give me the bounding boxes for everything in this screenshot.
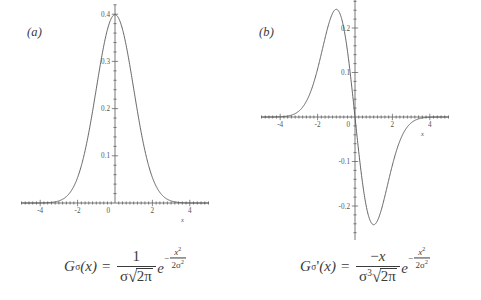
formula-b-radical: √2π (372, 268, 397, 285)
figure-root: (a) -4-20240.10.20.30.4x (b) -4-20240.20… (0, 0, 481, 300)
y-tick-label: 0.4 (101, 11, 110, 19)
formula-a-radical: √2π (128, 268, 153, 285)
x-tick-label: -4 (277, 121, 283, 129)
formula-a-exp-num-pow: 2 (178, 247, 181, 253)
panel-gaussian-derivative: (b) -4-20240.20.1-0.1-0.2x (241, 0, 481, 240)
formula-b-exp-den-pow: 2 (425, 259, 428, 265)
formula-a-numerator: 1 (130, 249, 144, 266)
formula-a-exp-num: x2 (172, 247, 183, 258)
x-tick-label: 4 (188, 207, 192, 215)
x-tick-label: -2 (315, 121, 321, 129)
y-tick-label: 0.1 (101, 152, 110, 160)
formula-b-exp-fraction: x2 2σ2 (414, 247, 430, 270)
x-tick-label: -4 (37, 207, 43, 215)
formula-a-exp-den: 2σ2 (170, 258, 186, 270)
y-tick-label: 0.1 (341, 69, 350, 77)
formula-a-radicand: 2π (136, 268, 153, 285)
formula-a-fn: G (64, 258, 75, 275)
formula-b-equals: = (341, 258, 349, 275)
formula-a-exponent: − x2 2σ2 (164, 247, 186, 270)
formula-a-equals: = (102, 258, 110, 275)
x-tick-label: 2 (151, 207, 155, 215)
formula-b-exp-num: x2 (416, 247, 427, 258)
x-axis-label: x (420, 130, 424, 137)
formula-a-exp-minus: − (164, 253, 169, 263)
formula-b-exp-den: 2σ2 (414, 258, 430, 270)
gaussian-derivative-plot: -4-20240.20.1-0.1-0.2x (241, 0, 481, 240)
formula-a-den-sigma: σ (120, 268, 128, 284)
plot-group: -4-20240.20.1-0.1-0.2x (262, 0, 449, 240)
plot-group: -4-20240.10.20.30.4x (22, 5, 209, 223)
formula-b-num-minus: − (370, 248, 378, 264)
x-tick-label: 4 (428, 121, 432, 129)
y-tick-label: -0.1 (339, 158, 351, 166)
formula-b-numerator: −x (367, 249, 388, 266)
x-tick-label: -2 (75, 207, 81, 215)
x-tick-label: 2 (391, 121, 395, 129)
y-tick-label: 0.2 (341, 25, 350, 33)
formula-a-arg: (x) (80, 258, 97, 275)
radical-sign-icon: √ (372, 268, 381, 285)
formula-a-exp-den-pow: 2 (181, 259, 184, 265)
formula-a-fraction: 1 σ√2π (117, 249, 156, 285)
formula-gaussian-derivative: Gσ'(x) = −x σ3√2π e − x2 2σ2 (300, 249, 430, 285)
formula-b-exponent: − x2 2σ2 (408, 247, 430, 270)
formula-b-exp-base: e (401, 260, 408, 278)
formula-a-denominator: σ√2π (117, 266, 156, 285)
formula-b-exp-num-pow: 2 (422, 247, 425, 253)
formula-b-exp-minus: − (408, 253, 413, 263)
formula-b-den-sigma: σ (359, 268, 367, 284)
x-tick-label: 0 (106, 207, 110, 215)
formula-b-fn: G (300, 258, 311, 275)
x-tick-label: 0 (346, 121, 350, 129)
gaussian-plot: -4-20240.10.20.30.4x (0, 0, 240, 240)
formula-b-subscript: σ (311, 262, 316, 272)
y-tick-label: -0.2 (339, 203, 351, 211)
formula-b-num-var: x (379, 248, 386, 264)
formula-b-fraction: −x σ3√2π (356, 249, 400, 285)
y-tick-label: 0.2 (101, 105, 110, 113)
panel-gaussian: (a) -4-20240.10.20.30.4x (0, 0, 240, 240)
y-tick-label: 0.3 (101, 58, 110, 66)
radical-sign-icon: √ (128, 268, 137, 285)
formula-b-arg: (x) (319, 258, 336, 275)
formula-a-exponential: e − x2 2σ2 (157, 255, 186, 278)
formula-a-exp-fraction: x2 2σ2 (170, 247, 186, 270)
formula-gaussian: Gσ(x) = 1 σ√2π e − x2 2σ2 (64, 249, 186, 285)
formula-b-denominator: σ3√2π (356, 266, 400, 285)
formula-b-radicand: 2π (380, 268, 397, 285)
x-axis-label: x (180, 216, 184, 223)
formula-b-exponential: e − x2 2σ2 (401, 255, 430, 278)
formula-a-exp-base: e (157, 260, 164, 278)
